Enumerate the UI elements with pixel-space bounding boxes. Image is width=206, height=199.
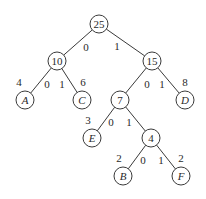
edge-bit-label: 1 (114, 40, 120, 52)
leaf-node-D: D (176, 91, 194, 109)
node-label: E (88, 132, 96, 144)
leaf-weight: 6 (80, 76, 86, 88)
leaf-node-B: B (114, 167, 132, 185)
node-label: 4 (148, 132, 154, 144)
node-label: A (21, 94, 29, 106)
node-label: F (177, 170, 185, 182)
leaf-weight: 4 (16, 76, 22, 88)
edge-bit-label: 1 (159, 78, 165, 90)
node-label: 25 (94, 18, 106, 30)
edge-bit-label: 1 (59, 78, 65, 90)
edge-bit-label: 0 (83, 41, 89, 53)
node-label: B (120, 170, 127, 182)
leaf-node-F: F (172, 167, 190, 185)
leaf-node-A: A (16, 91, 34, 109)
node-label: 10 (52, 55, 64, 67)
node-label: 15 (147, 55, 159, 67)
edge-bit-label: 0 (140, 154, 146, 166)
node-label: C (78, 94, 86, 106)
internal-node-4: 4 (142, 129, 160, 147)
edges (31, 29, 179, 169)
leaf-weight: 8 (182, 76, 188, 88)
edge-bit-label: 0 (108, 116, 114, 128)
internal-node-10: 10 (48, 52, 66, 70)
internal-node-7: 7 (111, 91, 129, 109)
leaf-weight: 3 (85, 114, 91, 126)
leaf-weight: 2 (178, 152, 184, 164)
node-label: 7 (117, 94, 123, 106)
edge-n15-n7 (126, 68, 147, 93)
nodes: 251015AC7DE4BF (16, 15, 194, 185)
huffman-tree-diagram: 0101010101 468322 251015AC7DE4BF (0, 0, 206, 199)
node-label: D (180, 94, 189, 106)
edge-n25-n15 (106, 29, 144, 56)
edge-bit-label: 0 (144, 78, 150, 90)
edge-bit-label: 1 (158, 154, 164, 166)
edge-bit-label: 1 (126, 116, 132, 128)
leaf-node-C: C (73, 91, 91, 109)
internal-node-25: 25 (90, 15, 108, 33)
leaf-node-E: E (83, 129, 101, 147)
leaf-weight: 2 (116, 152, 122, 164)
edge-bit-label: 0 (44, 78, 50, 90)
internal-node-15: 15 (143, 52, 161, 70)
